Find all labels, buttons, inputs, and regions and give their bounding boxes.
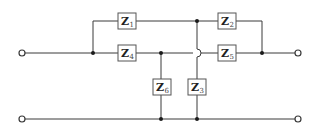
junction-dot [91,51,95,55]
impedance-z3: Z 3 [188,79,206,95]
z5-subscript: 5 [230,53,234,61]
z5-symbol: Z [221,47,229,60]
z2-symbol: Z [221,15,229,28]
junction-dot [159,117,163,121]
z1-symbol: Z [121,15,129,28]
z6-subscript: 6 [165,87,170,95]
impedance-z2: Z 2 [218,13,236,29]
wires [25,21,295,119]
crossover-hop [197,49,201,57]
z2-subscript: 2 [230,21,234,29]
z4-subscript: 4 [130,53,135,61]
junction-dot [260,51,264,55]
z4-symbol: Z [121,47,129,60]
junction-dot [159,51,163,55]
impedance-z1: Z 1 [118,13,136,29]
terminal-output-top [295,50,301,56]
terminal-input-bottom [19,116,25,122]
terminal-output-bottom [295,116,301,122]
impedance-z6: Z 6 [153,79,171,95]
circuit-diagram: Z 1 Z 2 Z 3 Z 4 Z 5 Z 6 [0,0,316,132]
junction-dot [195,19,199,23]
z1-subscript: 1 [130,21,134,29]
terminal-input-top [19,50,25,56]
z3-subscript: 3 [200,87,204,95]
impedance-z4: Z 4 [118,45,136,61]
impedance-z5: Z 5 [218,45,236,61]
z6-symbol: Z [156,81,164,94]
junctions [91,19,264,121]
junction-dot [195,117,199,121]
z3-symbol: Z [191,81,199,94]
